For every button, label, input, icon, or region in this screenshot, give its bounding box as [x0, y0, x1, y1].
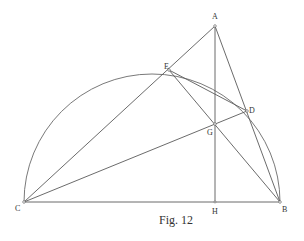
- point-H: [214, 201, 216, 203]
- label-A: A: [212, 12, 218, 21]
- point-A: [214, 25, 217, 28]
- point-C: [23, 201, 26, 204]
- label-H: H: [212, 207, 218, 216]
- segment-AB: [215, 26, 280, 202]
- figure-caption: Fig. 12: [159, 213, 193, 227]
- label-E: E: [164, 62, 169, 71]
- semicircle-arc: [24, 74, 280, 202]
- segment-CA: [24, 26, 215, 202]
- label-G: G: [207, 128, 213, 137]
- label-D: D: [249, 106, 255, 115]
- point-G: [214, 123, 217, 126]
- segment-ED: [169, 70, 247, 111]
- geometry-figure: A E D G C H B Fig. 12: [0, 0, 304, 241]
- label-C: C: [15, 204, 20, 213]
- label-B: B: [282, 205, 287, 214]
- point-B: [279, 201, 282, 204]
- point-D: [246, 110, 249, 113]
